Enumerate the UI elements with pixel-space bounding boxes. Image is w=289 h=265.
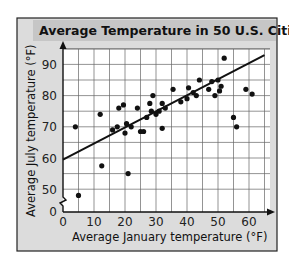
data-point	[197, 77, 202, 82]
data-point	[206, 87, 211, 92]
data-point	[150, 93, 155, 98]
data-point	[126, 171, 131, 176]
data-point	[178, 99, 183, 104]
y-axis-label: Average July temperature (°F)	[24, 45, 38, 218]
data-point	[160, 126, 165, 131]
x-tick-label: 20	[117, 215, 132, 229]
y-tick-label: 90	[42, 58, 57, 72]
data-point	[217, 88, 222, 93]
data-point	[124, 121, 129, 126]
data-point	[98, 112, 103, 117]
data-point	[149, 109, 154, 114]
x-tick-label: 30	[148, 215, 163, 229]
data-point	[135, 105, 140, 110]
data-point	[234, 124, 239, 129]
x-tick-label: 10	[86, 215, 101, 229]
data-point	[157, 109, 162, 114]
data-point	[116, 105, 121, 110]
data-point	[99, 163, 104, 168]
data-point	[215, 77, 220, 82]
data-point	[250, 91, 255, 96]
data-point	[129, 124, 134, 129]
scatter-chart: Average Temperature in 50 U.S. Cities 01…	[0, 0, 289, 265]
data-point	[243, 87, 248, 92]
data-point	[186, 85, 191, 90]
chart-title: Average Temperature in 50 U.S. Cities	[39, 23, 289, 38]
data-point	[231, 115, 236, 120]
y-tick-label: 60	[42, 152, 57, 166]
data-point	[147, 101, 152, 106]
data-point	[141, 129, 146, 134]
data-point	[219, 84, 224, 89]
data-point	[194, 93, 199, 98]
data-point	[73, 124, 78, 129]
data-point	[222, 56, 227, 61]
x-tick-label: 60	[241, 215, 256, 229]
x-tick-label: 0	[59, 215, 67, 229]
data-point	[76, 193, 81, 198]
x-axis-label: Average January temperature (°F)	[72, 230, 267, 244]
data-point	[212, 93, 217, 98]
data-point	[121, 102, 126, 107]
data-point	[184, 96, 189, 101]
y-tick-label: 70	[42, 120, 57, 134]
data-point	[170, 87, 175, 92]
x-tick-label: 40	[179, 215, 194, 229]
y-tick-label: 50	[42, 183, 57, 197]
data-point	[209, 79, 214, 84]
data-point	[144, 115, 149, 120]
x-tick-label: 50	[210, 215, 225, 229]
data-point	[160, 101, 165, 106]
data-point	[163, 105, 168, 110]
y-tick-label: 80	[42, 89, 57, 103]
y-tick-label-zero: 0	[49, 205, 57, 219]
data-point	[122, 130, 127, 135]
data-point	[110, 127, 115, 132]
data-point	[115, 124, 120, 129]
